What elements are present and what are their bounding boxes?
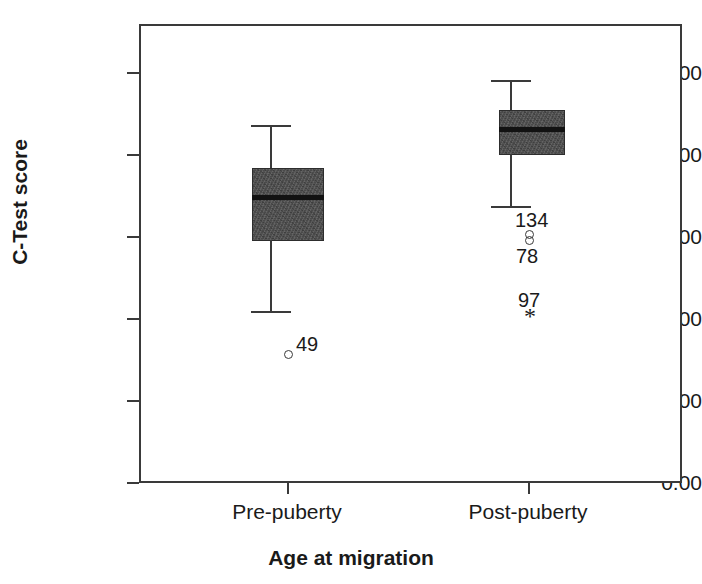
x-tick-mark-pre-puberty — [287, 483, 289, 494]
whisker-stem-upper-post — [510, 80, 512, 110]
whisker-cap-lower-pre — [251, 311, 291, 313]
outlier-label-post-134: 134 — [515, 210, 548, 230]
boxplot-figure: 100.00 80.00 60.00 40.00 20.00 0.00 C-Te… — [0, 0, 702, 584]
y-tick-mark-40 — [127, 318, 139, 320]
outlier-marker-post-78 — [525, 236, 534, 245]
x-tick-label-post-puberty: Post-puberty — [408, 500, 648, 524]
median-line-pre — [252, 195, 324, 200]
y-axis-title: C-Test score — [8, 112, 32, 292]
whisker-stem-upper-pre — [270, 125, 272, 169]
whisker-stem-lower-pre — [270, 240, 272, 312]
outlier-label-post-78: 78 — [516, 246, 538, 266]
whisker-cap-lower-post — [491, 206, 531, 208]
outlier-marker-post-97: * — [524, 311, 536, 321]
y-tick-mark-100 — [127, 72, 139, 74]
y-tick-mark-20 — [127, 400, 139, 402]
box-pre — [252, 168, 324, 241]
x-tick-label-pre-puberty: Pre-puberty — [167, 500, 407, 524]
x-tick-mark-post-puberty — [528, 483, 530, 494]
x-axis-title: Age at migration — [0, 546, 702, 570]
plot-area: 49 134 78 97 * — [139, 24, 682, 483]
y-tick-mark-0 — [127, 482, 139, 484]
outlier-label-pre-49: 49 — [296, 334, 318, 354]
outlier-marker-pre-49 — [284, 350, 293, 359]
whisker-stem-lower-post — [510, 154, 512, 207]
box-post — [499, 110, 565, 155]
median-line-post — [499, 127, 565, 132]
y-tick-mark-80 — [127, 154, 139, 156]
y-tick-mark-60 — [127, 236, 139, 238]
